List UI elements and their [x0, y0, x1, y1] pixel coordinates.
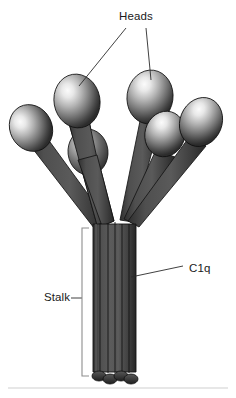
c1q-diagram-figure: Heads Stalk C1q: [0, 0, 236, 398]
stalk-feet: [92, 371, 138, 384]
stalk-body: [93, 224, 136, 372]
c1q-molecule-illustration: Heads Stalk C1q: [0, 0, 236, 398]
stalk-highlight-left: [95, 224, 97, 373]
stalk-foot-4: [124, 374, 138, 384]
label-stalk: Stalk: [44, 291, 70, 303]
stalk-bundle: [93, 222, 136, 373]
leader-c1q-to-stalk: [131, 266, 183, 277]
head-2: [50, 70, 105, 131]
label-heads: Heads: [119, 10, 153, 22]
leader-heads-to-head-2: [79, 28, 126, 86]
stalk-highlight-right: [117, 224, 119, 373]
label-c1q: C1q: [189, 262, 210, 274]
stalk-bracket: [82, 228, 89, 376]
